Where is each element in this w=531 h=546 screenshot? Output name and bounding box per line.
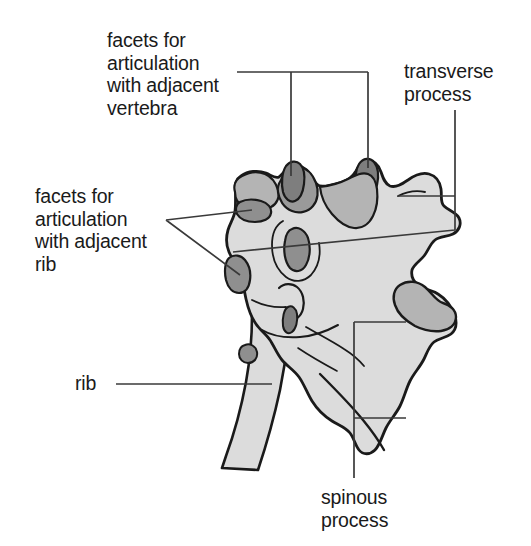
superior-articular-facet-anterior [282,162,304,202]
leader-facets-vertebra [237,72,368,176]
inferior-margin-facet [239,344,257,363]
bone-group [222,159,460,470]
label-facets-for-articulation-with-adjacent-rib: facets for articulation with adjacent ri… [35,185,147,275]
anatomy-figure: facets for articulation with adjacent ve… [0,0,531,546]
inferior-articular-facet [283,306,298,333]
label-rib: rib [75,372,96,395]
label-spinous-process: spinous process [321,486,388,531]
vertebral-foramen [284,228,310,271]
label-facets-for-articulation-with-adjacent-vertebra: facets for articulation with adjacent ve… [107,29,219,119]
label-transverse-process: transverse process [404,60,494,105]
